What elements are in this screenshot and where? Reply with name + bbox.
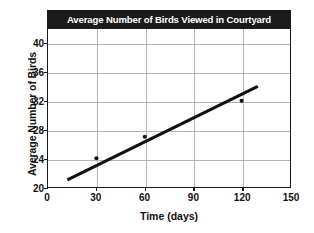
data-layer: [48, 29, 290, 187]
x-tick-label: 60: [125, 192, 165, 203]
plot-area: [47, 28, 291, 188]
chart-title: Average Number of Birds Viewed in Courty…: [47, 10, 291, 28]
x-tick-label: 30: [76, 192, 116, 203]
x-tick-mark: [96, 188, 97, 191]
y-tick-label: 24: [18, 153, 44, 164]
x-tick-mark: [242, 188, 243, 191]
chart-figure: Average Number of Birds Viewed in Courty…: [0, 0, 314, 233]
x-tick-label: 120: [222, 192, 262, 203]
trend-line: [67, 86, 257, 179]
data-point: [240, 99, 244, 103]
x-tick-label: 150: [271, 192, 311, 203]
y-tick-label: 32: [18, 95, 44, 106]
data-point: [143, 135, 147, 139]
y-tick-label: 28: [18, 124, 44, 135]
y-tick-label: 40: [18, 37, 44, 48]
x-tick-label: 0: [27, 192, 67, 203]
data-point: [94, 156, 98, 160]
y-tick-mark: [44, 72, 48, 73]
y-tick-mark: [44, 159, 48, 160]
x-tick-mark: [145, 188, 146, 191]
y-axis-ticks: 202428323640: [14, 28, 44, 188]
y-tick-mark: [44, 101, 48, 102]
y-tick-label: 36: [18, 66, 44, 77]
y-tick-mark: [44, 43, 48, 44]
x-axis-ticks: 0306090120150: [47, 188, 291, 208]
x-axis-title: Time (days): [47, 210, 291, 222]
x-tick-mark: [193, 188, 194, 191]
x-tick-label: 90: [173, 192, 213, 203]
y-tick-mark: [44, 130, 48, 131]
